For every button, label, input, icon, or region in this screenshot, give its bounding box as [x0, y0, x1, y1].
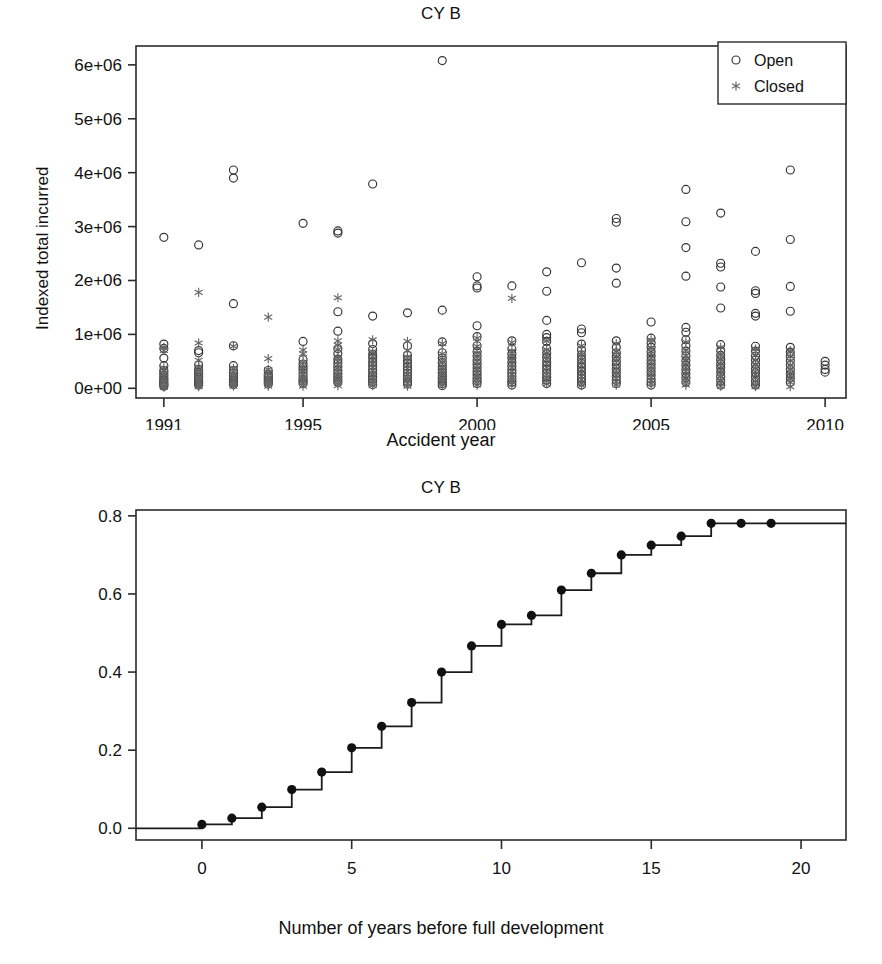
ecdf-x-tick-label: 0 [197, 859, 206, 878]
data-point-open [543, 316, 551, 324]
data-point-closed [195, 288, 203, 297]
data-point-open [682, 218, 690, 226]
data-point-closed [438, 339, 446, 348]
data-point-open [682, 328, 690, 336]
scatter-y-axis-label: Indexed total incurred [33, 167, 53, 331]
ecdf-data-point [407, 698, 416, 707]
scatter-x-tick-label: 2000 [458, 416, 496, 430]
scatter-panel: CY B Indexed total incurred Accident yea… [0, 0, 882, 466]
ecdf-plot-box [136, 510, 846, 840]
ecdf-data-point [527, 611, 536, 620]
ecdf-y-tick-label: 0.6 [98, 585, 122, 604]
data-point-open [229, 174, 237, 182]
data-point-open [543, 287, 551, 295]
data-point-open [334, 327, 342, 335]
ecdf-x-tick-label: 15 [642, 859, 661, 878]
scatter-y-tick-label: 6e+06 [74, 56, 122, 75]
data-point-open [612, 279, 620, 287]
ecdf-data-point [437, 667, 446, 676]
ecdf-x-tick-label: 10 [492, 859, 511, 878]
scatter-x-tick-label: 2005 [632, 416, 670, 430]
scatter-y-tick-label: 3e+06 [74, 218, 122, 237]
scatter-x-axis-label: Accident year [0, 430, 882, 451]
data-point-open [299, 219, 307, 227]
scatter-y-tick-label: 0e+00 [74, 379, 122, 398]
scatter-y-tick-label: 4e+06 [74, 164, 122, 183]
scatter-y-tick-label: 2e+06 [74, 271, 122, 290]
data-point-open [369, 180, 377, 188]
legend-label-closed: Closed [754, 78, 804, 95]
legend: OpenClosed [718, 42, 846, 104]
ecdf-data-point [347, 743, 356, 752]
scatter-x-tick-label: 1995 [284, 416, 322, 430]
data-point-closed [264, 313, 272, 322]
ecdf-x-tick-label: 20 [792, 859, 811, 878]
data-point-open [195, 241, 203, 249]
ecdf-data-point [467, 641, 476, 650]
ecdf-data-point [617, 550, 626, 559]
data-point-open [786, 236, 794, 244]
data-point-open [473, 322, 481, 330]
data-point-closed [369, 335, 377, 344]
data-point-closed [264, 354, 272, 363]
data-point-open [717, 209, 725, 217]
ecdf-data-point [257, 803, 266, 812]
ecdf-title: CY B [0, 478, 882, 498]
data-point-open [334, 308, 342, 316]
data-point-open [438, 57, 446, 65]
ecdf-data-point [737, 519, 746, 528]
data-point-closed [195, 338, 203, 347]
data-point-closed [473, 334, 481, 343]
data-point-open [717, 283, 725, 291]
data-point-open [786, 166, 794, 174]
ecdf-x-axis-label: Number of years before full development [0, 918, 882, 939]
data-point-open [682, 244, 690, 252]
ecdf-data-point [677, 532, 686, 541]
ecdf-y-tick-label: 0.2 [98, 741, 122, 760]
ecdf-data-point [497, 620, 506, 629]
data-point-closed [508, 294, 516, 303]
ecdf-data-point [197, 820, 206, 829]
data-point-open [682, 185, 690, 193]
legend-label-open: Open [754, 52, 793, 69]
data-point-open [508, 282, 516, 290]
ecdf-x-tick-label: 5 [347, 859, 356, 878]
ecdf-data-point [287, 785, 296, 794]
series-closed [160, 288, 794, 392]
data-point-open [369, 312, 377, 320]
scatter-plot-area: 0e+001e+062e+063e+064e+065e+066e+0619911… [0, 0, 882, 430]
ecdf-data-point [767, 519, 776, 528]
ecdf-plot-area: 0.00.20.40.60.805101520 [0, 466, 882, 916]
data-point-open [438, 306, 446, 314]
data-point-open [229, 166, 237, 174]
ecdf-points [197, 519, 775, 829]
ecdf-data-point [557, 585, 566, 594]
data-point-open [786, 307, 794, 315]
ecdf-data-point [227, 814, 236, 823]
data-point-open [786, 282, 794, 290]
figure-root: CY B Indexed total incurred Accident yea… [0, 0, 882, 964]
scatter-y-tick-label: 1e+06 [74, 325, 122, 344]
ecdf-step-line [136, 523, 846, 828]
data-point-open [403, 309, 411, 317]
scatter-y-tick-label: 5e+06 [74, 110, 122, 129]
data-point-open [717, 304, 725, 312]
ecdf-data-point [587, 569, 596, 578]
data-point-open [577, 259, 585, 267]
data-point-open [647, 318, 655, 326]
data-point-closed [473, 380, 481, 389]
ecdf-y-tick-label: 0.0 [98, 819, 122, 838]
ecdf-data-point [317, 767, 326, 776]
ecdf-data-point [647, 541, 656, 550]
scatter-title: CY B [0, 4, 882, 24]
ecdf-panel: CY B Number of years before full develop… [0, 466, 882, 964]
scatter-x-tick-label: 1991 [145, 416, 183, 430]
ecdf-data-point [707, 519, 716, 528]
data-point-open [160, 354, 168, 362]
data-point-open [612, 264, 620, 272]
data-point-closed [612, 380, 620, 389]
series-open [160, 57, 829, 391]
scatter-x-tick-label: 2010 [806, 416, 844, 430]
ecdf-y-tick-label: 0.8 [98, 507, 122, 526]
data-point-open [682, 272, 690, 280]
